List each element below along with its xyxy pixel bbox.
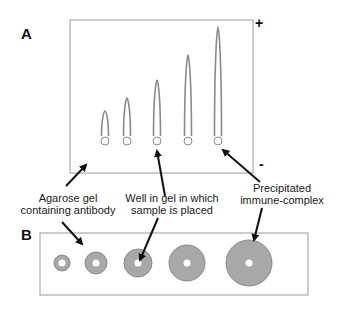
precipitin-rocket bbox=[102, 111, 109, 136]
sample-wells-a bbox=[101, 137, 222, 145]
panel-b-label: B bbox=[21, 226, 32, 243]
negative-electrode-sign: - bbox=[259, 156, 264, 172]
precipitin-rocket bbox=[154, 80, 161, 136]
agarose-label-line1: Agarose gel bbox=[39, 192, 98, 204]
sample-well bbox=[184, 137, 192, 145]
sample-well bbox=[184, 260, 191, 267]
precipitin-rocket bbox=[185, 55, 192, 136]
agarose-label-line2: containing antibody bbox=[21, 204, 116, 216]
sample-well bbox=[153, 137, 161, 145]
sample-well bbox=[59, 260, 66, 267]
panel-a-gel-box bbox=[70, 20, 253, 173]
sample-well bbox=[135, 260, 142, 267]
sample-well bbox=[214, 137, 222, 145]
complex-label-line2: immune-complex bbox=[240, 194, 324, 206]
panel-a-label: A bbox=[21, 25, 32, 42]
sample-well bbox=[93, 260, 100, 267]
sample-well bbox=[101, 137, 109, 145]
complex-label-line1: Precipitated bbox=[253, 182, 311, 194]
sample-well bbox=[123, 137, 131, 145]
arrow-agarose-a bbox=[66, 165, 86, 186]
well-label-line2: sample is placed bbox=[131, 204, 213, 216]
positive-electrode-sign: + bbox=[255, 15, 263, 31]
sample-well bbox=[246, 260, 253, 267]
well-label-line1: Well in gel in which bbox=[125, 192, 218, 204]
precipitin-rocket bbox=[215, 27, 222, 136]
arrow-complex-a bbox=[223, 150, 260, 182]
radial-immunodiffusion-rings bbox=[54, 240, 272, 286]
precipitin-rockets bbox=[102, 27, 222, 136]
precipitin-rocket bbox=[124, 98, 131, 136]
immunoelectrophoresis-diagram: A + - Agarose gel containing antibody We… bbox=[0, 0, 337, 314]
arrow-complex-b bbox=[254, 208, 262, 240]
